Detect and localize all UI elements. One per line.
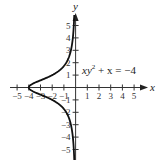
y-tick-label: 4 xyxy=(66,33,71,43)
y-tick-label: −4 xyxy=(61,132,71,142)
y-tick-label: −1 xyxy=(61,95,71,105)
x-tick-label: 5 xyxy=(132,91,137,101)
equation-label: xy2 + x = −4 xyxy=(81,63,136,76)
y-tick-label: −5 xyxy=(61,145,71,155)
x-tick-label: 1 xyxy=(85,91,90,101)
x-axis-label: x xyxy=(149,81,155,93)
x-tick-label: 4 xyxy=(120,91,125,101)
y-axis-label: y xyxy=(72,0,78,12)
x-axis-arrow-icon xyxy=(140,85,148,91)
y-tick-label: 5 xyxy=(66,21,71,31)
x-tick-label: 2 xyxy=(97,91,102,101)
y-axis: −5−4−3−2−112345 y xyxy=(61,0,79,160)
graph: −5−4−3−2−112345 x −5−4−3−2−112345 y xy2 … xyxy=(0,0,157,164)
x-tick-label: 3 xyxy=(108,91,113,101)
y-tick-label: 1 xyxy=(66,70,71,80)
x-tick-label: −5 xyxy=(12,91,22,101)
